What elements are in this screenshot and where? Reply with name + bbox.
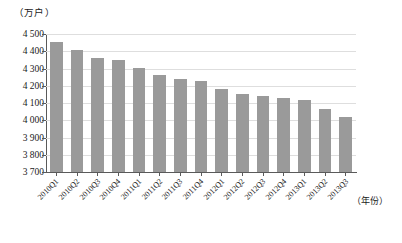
- bar: [71, 50, 84, 172]
- bar: [91, 58, 104, 172]
- bar-slot: [232, 34, 253, 172]
- bar-slot: [253, 34, 274, 172]
- y-tick-label: 3 800: [0, 150, 44, 160]
- bar: [112, 60, 125, 172]
- bar-series: [46, 34, 356, 172]
- bar: [153, 75, 166, 172]
- y-tick-label: 3 700: [0, 167, 44, 177]
- bar-slot: [129, 34, 150, 172]
- bar-slot: [46, 34, 67, 172]
- bar-slot: [67, 34, 88, 172]
- y-axis-unit-label: （万户）: [14, 7, 55, 19]
- y-tick-label: 3 900: [0, 133, 44, 143]
- y-tick-label: 4 400: [0, 46, 44, 56]
- bar-slot: [315, 34, 336, 172]
- bar-slot: [335, 34, 356, 172]
- bar: [50, 42, 63, 172]
- bar-slot: [87, 34, 108, 172]
- bar-slot: [108, 34, 129, 172]
- y-tick-label: 4 100: [0, 98, 44, 108]
- bar-slot: [170, 34, 191, 172]
- y-tick-label: 4 500: [0, 29, 44, 39]
- bar-slot: [273, 34, 294, 172]
- bar-slot: [294, 34, 315, 172]
- bar-slot: [191, 34, 212, 172]
- x-axis-labels: 2010Q12010Q22010Q32010Q42011Q12011Q22011…: [46, 177, 356, 221]
- bar-chart: （万户） 4 5004 4004 3004 2004 1004 0003 900…: [0, 0, 402, 243]
- y-tick-label: 4 000: [0, 115, 44, 125]
- bar: [133, 68, 146, 172]
- y-tick-label: 4 300: [0, 64, 44, 74]
- x-tick-label-text: 2010Q1: [36, 177, 61, 202]
- x-axis-unit-label: （年份）: [352, 196, 388, 207]
- y-tick-label: 4 200: [0, 81, 44, 91]
- bar: [195, 81, 208, 172]
- bar-slot: [149, 34, 170, 172]
- bar-slot: [211, 34, 232, 172]
